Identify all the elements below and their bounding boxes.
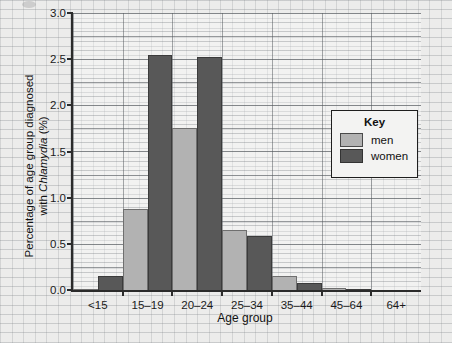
x-tick-label: <15 [88,299,108,311]
bar-men [73,289,98,290]
bar-men [123,209,148,290]
bar-women [148,55,173,290]
x-tick-label: 35–44 [281,299,313,311]
x-tick-label: 25–34 [231,299,263,311]
x-tick-mark [122,290,124,296]
legend-label: women [371,150,408,162]
bar-women [197,57,222,290]
x-tick-mark [271,290,273,296]
x-tick-label: 20–24 [181,299,213,311]
scan-artifact [22,1,36,8]
bar-men [172,128,197,291]
chart-container: 0.00.51.01.52.02.53.0 <1515–1920–2425–34… [0,0,452,343]
legend-swatch-women [340,149,363,163]
bar-group [73,13,123,290]
bar-group [123,13,173,290]
x-tick-label: 45–64 [330,299,362,311]
bar-group [222,13,272,290]
legend-box: Key menwomen [331,110,418,178]
x-tick-mark [370,290,372,296]
x-tick-mark [221,290,223,296]
bar-group [272,13,322,290]
legend-entry: men [340,133,417,147]
bar-men [322,288,347,290]
legend-entries: menwomen [332,133,417,163]
bar-women [98,276,123,290]
bar-women [297,283,322,290]
legend-swatch-men [340,133,363,147]
x-tick-mark [171,290,173,296]
y-axis-label: Percentage of age group diagnosedwith Ch… [22,51,50,281]
bar-group [172,13,222,290]
bar-women [247,236,272,290]
legend-entry: women [340,149,417,163]
x-tick-label: 15–19 [132,299,164,311]
bar-women [346,289,371,290]
bar-men [272,276,297,290]
x-axis-label: Age group [71,311,419,325]
x-tick-label: 64+ [386,299,406,311]
legend-title: Key [332,116,417,128]
legend-label: men [371,134,393,146]
bar-men [222,230,247,290]
x-tick-mark [321,290,323,296]
